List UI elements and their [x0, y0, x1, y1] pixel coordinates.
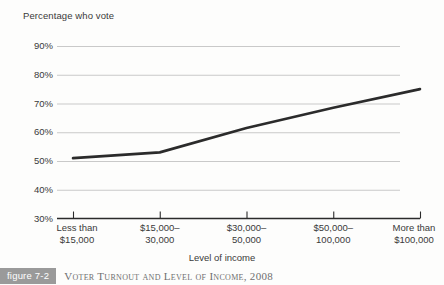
- x-axis-title: Level of income: [0, 252, 444, 263]
- x-tick-label: More than$100,000: [393, 222, 436, 245]
- y-tick-label: 70%: [1, 98, 53, 109]
- x-axis-labels: Less than$15,000$15,000–30,000$30,000–50…: [0, 222, 444, 256]
- x-tick-label: $30,000–50,000: [227, 222, 267, 245]
- x-axis-ticks: [74, 212, 421, 219]
- x-tick-label: $50,000–100,000: [313, 222, 353, 245]
- x-tick-label: $15,000–30,000: [140, 222, 180, 245]
- x-tick-label-line: $50,000–: [313, 222, 353, 234]
- x-tick-label-line: 30,000: [140, 234, 180, 246]
- x-tick-label-line: $15,000: [56, 234, 97, 246]
- gridlines: [57, 47, 400, 191]
- y-tick-label: 80%: [1, 69, 53, 80]
- x-tick-label-line: $100,000: [393, 234, 436, 246]
- figure-number-badge: figure 7-2: [0, 268, 56, 284]
- x-tick-label-line: $30,000–: [227, 222, 267, 234]
- x-tick-label-line: $15,000–: [140, 222, 180, 234]
- figure-container: Percentage who vote 90%80%70%60%50%40%30…: [0, 0, 444, 285]
- x-tick-label-line: 100,000: [313, 234, 353, 246]
- figure-caption: figure 7-2 Voter Turnout and Level of In…: [0, 267, 444, 285]
- y-tick-label: 50%: [1, 155, 53, 166]
- x-tick-label-line: More than: [393, 222, 436, 234]
- x-tick-label-line: Less than: [56, 222, 97, 234]
- y-tick-label: 40%: [1, 184, 53, 195]
- x-tick-label-line: 50,000: [227, 234, 267, 246]
- figure-caption-text: Voter Turnout and Level of Income, 2008: [64, 270, 273, 282]
- y-tick-label: 90%: [1, 40, 53, 51]
- y-tick-label: 60%: [1, 126, 53, 137]
- x-tick-label: Less than$15,000: [56, 222, 97, 245]
- y-axis-labels: 90%80%70%60%50%40%30%: [0, 0, 53, 230]
- data-series-line: [73, 89, 420, 158]
